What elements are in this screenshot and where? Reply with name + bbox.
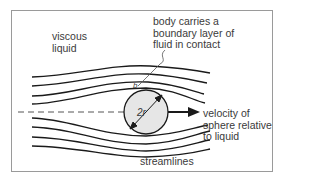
boundary-layer-label: body carries a boundary layer of fluid i… (153, 16, 234, 51)
upper-streamlines (32, 66, 210, 104)
boundary-marker-label: b (133, 80, 137, 92)
velocity-label: velocity of sphere relative to liquid (203, 108, 272, 143)
streamline (32, 88, 205, 104)
streamline (32, 127, 210, 144)
streamline (32, 66, 210, 77)
boundary-leader-line (138, 50, 165, 86)
streamline (32, 118, 208, 136)
streamline (32, 137, 210, 151)
velocity-arrow (168, 107, 200, 117)
lower-streamlines (32, 118, 210, 157)
diameter-label: 2r (137, 107, 146, 119)
streamlines-label: streamlines (140, 156, 194, 168)
medium-label: viscous liquid (52, 31, 87, 54)
streamline (32, 74, 207, 86)
